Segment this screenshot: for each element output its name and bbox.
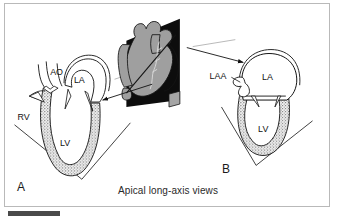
panel-b-label-la: LA — [262, 72, 273, 82]
arrow-to-panel-b — [187, 48, 243, 63]
panel-a-label-ao: AO — [50, 67, 63, 77]
panel-a-illustration: AO LA RV LV — [15, 55, 131, 179]
panel-b-illustration: LAA LA LV — [210, 50, 313, 166]
panel-a-label-la: LA — [74, 75, 85, 85]
page-footer-bar — [8, 211, 60, 216]
panel-b-sector-lines — [221, 107, 312, 165]
figure-caption: Apical long-axis views — [5, 185, 331, 196]
panel-letter-b: B — [222, 162, 230, 176]
panel-b-label-laa: LAA — [210, 71, 227, 81]
center-heart-diagram — [115, 19, 236, 107]
figure-root: AO LA RV LV — [0, 0, 337, 219]
panel-a-label-lv: LV — [60, 138, 70, 148]
panel-b-label-lv: LV — [258, 124, 268, 134]
figure-frame: AO LA RV LV — [4, 3, 330, 207]
panel-a-label-rv: RV — [17, 112, 29, 122]
panel-a-mitral-valve — [65, 89, 93, 111]
panel-a-la-chamber — [65, 59, 106, 102]
figure-illustration: AO LA RV LV — [5, 4, 329, 206]
center-transducer — [169, 91, 180, 107]
